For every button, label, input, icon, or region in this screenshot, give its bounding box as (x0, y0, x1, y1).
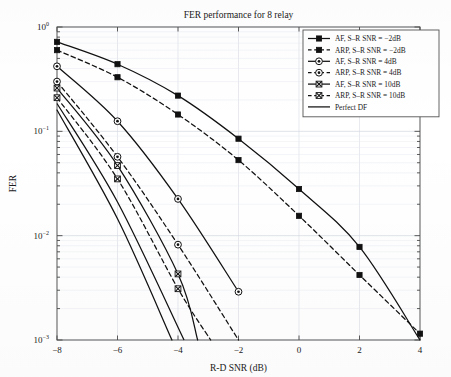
fer-performance-chart: −8−6−4−202410010−110−210−3FER performanc… (0, 0, 451, 377)
series-1-marker (357, 272, 362, 277)
chart-figure: −8−6−4−202410010−110−210−3FER performanc… (0, 0, 451, 377)
series-0-marker (357, 244, 362, 249)
legend-label-1: ARP, S–R SNR = −2dB (335, 46, 406, 55)
legend-label-5: ARP, S–R SNR = 10dB (335, 91, 405, 100)
series-line-5 (57, 98, 211, 340)
x-tick-label: −8 (52, 345, 62, 355)
series-1-marker (236, 158, 241, 163)
series-3-marker-center (56, 80, 59, 83)
legend-label-3: ARP, S–R SNR = 4dB (335, 68, 401, 77)
x-tick-label: 2 (357, 345, 362, 355)
x-tick-label: 0 (297, 345, 302, 355)
legend-marker-3-center (318, 71, 321, 74)
series-0-marker (54, 39, 59, 44)
legend-label-2: AF, S–R SNR = 4dB (335, 57, 397, 66)
legend-label-6: Perfect DF (335, 103, 367, 112)
series-3-marker-center (177, 243, 180, 246)
x-axis-label: R-D SNR (dB) (210, 363, 267, 374)
series-0-marker (175, 93, 180, 98)
legend-label-4: AF, S–R SNR = 10dB (335, 80, 400, 89)
legend-marker-2-center (318, 60, 321, 63)
x-tick-label: −4 (173, 345, 183, 355)
y-tick-label: 100 (37, 21, 49, 32)
series-2-marker-center (177, 198, 180, 201)
series-1-marker (296, 213, 301, 218)
y-tick-label: 10−3 (34, 334, 49, 345)
series-1-marker (115, 75, 120, 80)
series-0-marker (236, 136, 241, 141)
series-1-marker (417, 331, 422, 336)
y-tick-label: 10−2 (34, 230, 49, 241)
x-tick-label: −6 (113, 345, 123, 355)
series-line-4 (57, 88, 198, 340)
legend-label-0: AF, S–R SNR = −2dB (335, 34, 401, 43)
series-1-marker (175, 112, 180, 117)
series-1-marker (54, 48, 59, 53)
chart-title: FER performance for 8 relay (184, 10, 294, 20)
series-2-marker-center (56, 65, 59, 68)
series-line-6 (57, 110, 172, 340)
y-tick-label: 10−1 (34, 125, 49, 136)
legend-marker-1 (316, 47, 321, 52)
series-2-marker-center (116, 120, 119, 123)
series-2-marker-center (237, 290, 240, 293)
series-3-marker-center (116, 155, 119, 158)
series-line-perfect-df-companion (57, 103, 184, 340)
legend-marker-0 (316, 36, 321, 41)
x-tick-label: 4 (418, 345, 423, 355)
series-0-marker (115, 62, 120, 67)
x-tick-label: −2 (234, 345, 244, 355)
y-axis-label: FER (8, 174, 18, 192)
series-0-marker (296, 186, 301, 191)
